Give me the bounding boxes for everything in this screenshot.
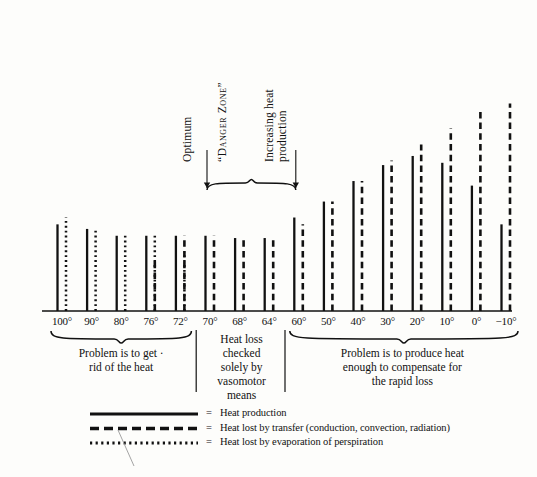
annotation-increasing-heat-line1: Increasing heat [263,89,275,162]
region-caption-cold: Problem is to produce heatenough to comp… [341,346,464,388]
caption-line: the rapid loss [341,374,464,388]
x-tick-label: 90° [84,315,99,327]
caption-line: rid of the heat [79,360,164,374]
x-tick-label: −10° [496,315,517,327]
annotation-increasing-heat-line2: production [276,110,288,162]
legend-equals: = [206,422,212,433]
x-tick-label: 80° [114,315,129,327]
legend-label: Heat lost by evaporation of perspiration [220,436,383,447]
x-tick-label: 76° [143,315,158,327]
caption-line: vasomotor [217,374,266,388]
x-tick-label: 50° [321,315,336,327]
x-tick-label: 64° [262,315,277,327]
x-tick-label: 72° [173,315,188,327]
caption-line: means [217,388,266,402]
annotation-danger-zone: “Danger Zone” [216,82,228,162]
caption-line: Problem is to get · [79,346,164,360]
region-caption-warm: Problem is to get ·rid of the heat [79,346,164,374]
x-tick-label: 10° [439,315,454,327]
x-tick-label: 0° [472,315,482,327]
caption-line: solely by [217,360,266,374]
x-tick-label: 70° [203,315,218,327]
x-tick-label: 68° [232,315,247,327]
chart-artwork [0,0,537,477]
region-caption-neutral: Heat losscheckedsolely byvasomotormeans [217,332,266,402]
caption-line: Heat loss [217,332,266,346]
annotation-optimum: Optimum [181,117,193,163]
x-tick-label: 40° [351,315,366,327]
legend-equals: = [206,436,212,447]
legend-label: Heat lost by transfer (conduction, conve… [220,422,450,433]
caption-line: Problem is to produce heat [341,346,464,360]
x-tick-label: 60° [291,315,306,327]
figure-root: Optimum “Danger Zone” Increasing heat pr… [0,0,537,477]
legend-equals: = [206,407,212,418]
x-tick-label: 30° [380,315,395,327]
legend-label: Heat production [220,407,286,418]
caption-line: enough to compensate for [341,360,464,374]
x-tick-label: 100° [52,315,72,327]
caption-line: checked [217,346,266,360]
x-tick-label: 20° [410,315,425,327]
